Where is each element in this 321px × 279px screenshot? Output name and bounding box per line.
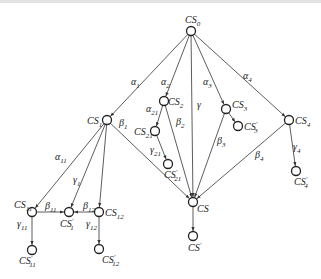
node-CS4p [292,167,301,176]
node-label-CS3: CS3 [232,99,248,113]
edge-CS3-to-CS [195,113,225,197]
node-CS4 [285,116,294,125]
edge-CS0-to-CS [191,35,193,197]
edge-CS4-to-CS [197,123,286,199]
node-label-CSp: CS′ [188,241,202,253]
node-CS12p [95,245,104,254]
edge-CS1-to-CS11 [35,123,104,208]
edge-CS0-to-CS3 [193,35,224,104]
edge-label-CS1-to-CS1p: γ1 [73,174,80,188]
node-label-CS21: CS21 [134,126,153,140]
edge-label-CS0-to-CS4: α4 [243,70,252,84]
node-label-CS3p: CS′3 [244,120,258,135]
edge-label-CS3-to-CS: β3 [216,135,226,149]
node-CS12 [95,208,104,217]
edge-label-CS4-to-CS: β4 [254,149,264,163]
edge-label-CS12-to-CS12p: γ12 [86,218,97,232]
node-label-CS0: CS0 [185,14,201,28]
state-transition-diagram: α1α2γα3α4α21β2γ21β1β3β4γ4α11γ1β11β12γ11γ… [0,0,321,279]
node-CS3p [234,122,243,131]
node-CS1p [65,208,74,217]
edge-label-CS0-to-CS1: α1 [131,76,140,90]
node-label-CS12: CS12 [105,207,124,221]
edge-CS1-to-CS12 [99,124,106,207]
node-CS1 [103,116,112,125]
node-CS21p [164,160,173,169]
node-label-CS4: CS4 [295,115,311,129]
node-label-CS1p: CS′1 [60,217,74,232]
node-CSp [189,232,198,241]
edge-label-CS2-to-CS: β2 [175,116,185,130]
node-label-CS2: CS2 [168,96,184,110]
edge-label-CS2-to-CS21: α21 [146,103,158,117]
edge-labels-group: α1α2γα3α4α21β2γ21β1β3β4γ4α11γ1β11β12γ11γ… [17,70,301,232]
node-label-CS12p: CS′12 [102,253,120,268]
edge-label-CS4-to-CS4p: γ4 [293,141,301,155]
node-label-CS1: CS1 [87,115,102,129]
edge-label-CS0-to-CS2: α2 [161,76,170,90]
node-labels-group: CS0CS1CS2CS21CS′21CS3CS′3CS4CS′4CSCS′CS1… [14,14,311,269]
edge-label-CS0-to-CS: γ [197,99,202,110]
node-label-CS: CS [197,203,209,214]
node-CS3 [222,105,231,114]
node-label-CS11: CS11 [14,199,32,213]
edge-label-CS1-to-CS11: α11 [55,151,67,165]
edge-label-CS0-to-CS3: α3 [203,76,212,90]
edge-label-CS21-to-CS21p: γ21 [150,144,161,158]
node-CS0 [187,27,196,36]
edge-label-CS11-to-CS11p: γ11 [17,218,27,232]
edge-CS3-to-CS3p [229,113,236,122]
edge-label-CS1-to-CS: β1 [118,117,127,131]
node-label-CS11p: CS′11 [19,254,36,269]
node-label-CS21p: CS′21 [164,168,181,183]
node-label-CS4p: CS′4 [294,175,308,190]
